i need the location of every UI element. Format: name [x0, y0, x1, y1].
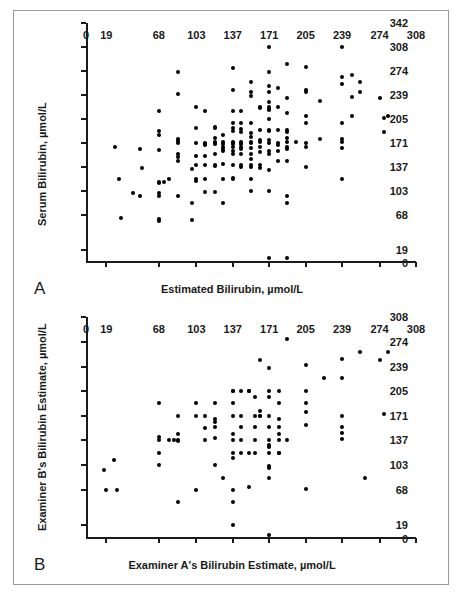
data-point: [231, 523, 235, 527]
y-tick-label: 308: [390, 311, 408, 323]
data-point: [231, 451, 235, 455]
data-point: [157, 219, 161, 223]
data-point: [247, 451, 251, 455]
y-tick-label: 274: [390, 336, 408, 348]
data-point: [304, 389, 308, 393]
data-point: [203, 163, 207, 167]
data-point: [231, 163, 235, 167]
data-point: [221, 133, 225, 137]
y-tick-mark: [81, 166, 86, 168]
data-point: [131, 191, 135, 195]
y-tick-label: 342: [390, 17, 408, 29]
data-point: [358, 350, 362, 354]
y-tick-mark: [81, 118, 86, 120]
data-point: [340, 437, 344, 441]
data-point: [276, 86, 280, 90]
data-point: [239, 451, 243, 455]
data-point: [157, 181, 161, 185]
data-point: [249, 141, 253, 145]
y-tick-label: 68: [396, 209, 408, 221]
data-point: [213, 126, 217, 130]
y-tick-mark: [81, 439, 86, 441]
data-point: [304, 65, 308, 69]
data-point: [231, 145, 235, 149]
y-tick-label: 171: [390, 137, 408, 149]
data-point: [258, 145, 262, 149]
y-tick-mark: [81, 46, 86, 48]
data-point: [157, 463, 161, 467]
y-tick-label: 274: [390, 65, 408, 77]
data-point: [167, 177, 171, 181]
data-point: [340, 414, 344, 418]
data-point: [304, 145, 308, 149]
data-point: [258, 106, 262, 110]
data-point: [378, 358, 382, 362]
data-point: [203, 154, 207, 158]
data-point: [203, 143, 207, 147]
data-point: [267, 476, 271, 480]
data-point: [276, 105, 280, 109]
data-point: [112, 458, 116, 462]
data-point: [157, 148, 161, 152]
data-point: [138, 147, 142, 151]
data-point: [276, 143, 280, 147]
y-tick-label: 19: [396, 519, 408, 531]
y-tick-mark: [81, 249, 86, 251]
data-point: [221, 177, 225, 181]
data-point: [102, 468, 106, 472]
data-point: [231, 109, 235, 113]
data-point: [176, 92, 180, 96]
data-point: [276, 149, 280, 153]
y-tick-label: 0: [402, 533, 408, 545]
y-tick-mark: [81, 22, 86, 24]
y-tick-mark: [81, 489, 86, 491]
data-point: [231, 121, 235, 125]
panel-b: 01968103137171205239274308 0196810313717…: [14, 303, 449, 585]
data-point: [167, 438, 171, 442]
data-point: [249, 135, 253, 139]
data-point: [213, 142, 217, 146]
data-point: [249, 146, 253, 150]
data-point: [213, 190, 217, 194]
y-tick-label: 239: [390, 89, 408, 101]
data-point: [213, 436, 217, 440]
y-tick-mark: [81, 366, 86, 368]
data-point: [304, 423, 308, 427]
data-point: [176, 432, 180, 436]
data-point: [213, 152, 217, 156]
y-tick-mark: [81, 316, 86, 318]
data-point: [231, 488, 235, 492]
data-point: [258, 409, 262, 413]
panel-a-letter: A: [34, 279, 45, 299]
y-tick-label: 308: [390, 41, 408, 53]
y-tick-label: 103: [390, 185, 408, 197]
data-point: [190, 167, 194, 171]
y-tick-label: 103: [390, 459, 408, 471]
data-point: [304, 165, 308, 169]
data-point: [340, 177, 344, 181]
data-point: [267, 100, 271, 104]
data-point: [340, 357, 344, 361]
data-point: [258, 140, 262, 144]
data-point: [203, 177, 207, 181]
data-point: [247, 485, 251, 489]
data-point: [340, 121, 344, 125]
y-tick-mark: [81, 390, 86, 392]
data-point: [140, 166, 144, 170]
y-tick-mark: [81, 190, 86, 192]
data-point: [318, 99, 322, 103]
y-tick-mark: [81, 214, 86, 216]
data-point: [340, 45, 344, 49]
data-point: [258, 150, 262, 154]
panel-b-y-ticks: 01968103137171205239274308: [86, 317, 416, 539]
y-tick-label: 205: [390, 113, 408, 125]
data-point: [304, 487, 308, 491]
data-point: [267, 533, 271, 537]
panel-a-y-axis-title: Serum Bilirubin, µmol/L: [36, 102, 48, 226]
data-point: [304, 410, 308, 414]
data-point: [340, 146, 344, 150]
data-point: [231, 129, 235, 133]
data-point: [249, 177, 253, 181]
data-point: [267, 451, 271, 455]
y-tick-label: 171: [390, 410, 408, 422]
